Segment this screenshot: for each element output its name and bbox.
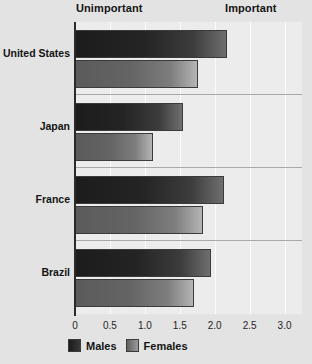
bar-males-france (75, 176, 224, 204)
bar-females-france (75, 206, 203, 234)
bar-males-japan (75, 103, 183, 131)
gridline-vertical (285, 22, 286, 314)
x-tick-label-1-5: 1.5 (173, 320, 187, 331)
bar-females-united-states (75, 60, 198, 88)
gridline-vertical (250, 22, 251, 314)
x-tick-label-0-5: 0.5 (103, 320, 117, 331)
x-tick-label-1-0: 1.0 (138, 320, 152, 331)
category-label-france: France (0, 193, 70, 205)
x-tick-label-2-0: 2.0 (208, 320, 222, 331)
category-label-united-states: United States (0, 47, 70, 59)
category-label-brazil: Brazil (0, 266, 70, 278)
x-tick-label-3-0: 3.0 (278, 320, 292, 331)
y-axis-spine (74, 22, 76, 316)
bar-females-japan (75, 133, 153, 161)
gridline-vertical (215, 22, 216, 314)
legend-entry-females: Females (126, 339, 188, 352)
legend-entry-males: Males (68, 339, 117, 352)
chart-legend: Males Females (68, 339, 188, 352)
group-separator (75, 94, 302, 95)
legend-swatch-males-icon (68, 339, 81, 352)
category-label-japan: Japan (0, 120, 70, 132)
x-tick-label-0: 0 (72, 320, 78, 331)
axis-annotation-important: Important (225, 2, 277, 14)
bar-chart: Unimportant Important United States Japa… (0, 0, 312, 364)
legend-label-females: Females (144, 340, 188, 352)
axis-annotation-unimportant: Unimportant (76, 2, 142, 14)
plot-area (75, 22, 302, 314)
x-tick-label-2-5: 2.5 (243, 320, 257, 331)
bar-males-brazil (75, 249, 211, 277)
legend-label-males: Males (86, 340, 117, 352)
group-separator (75, 167, 302, 168)
bar-males-united-states (75, 30, 227, 58)
bar-females-brazil (75, 279, 194, 307)
group-separator (75, 240, 302, 241)
legend-swatch-females-icon (126, 339, 139, 352)
